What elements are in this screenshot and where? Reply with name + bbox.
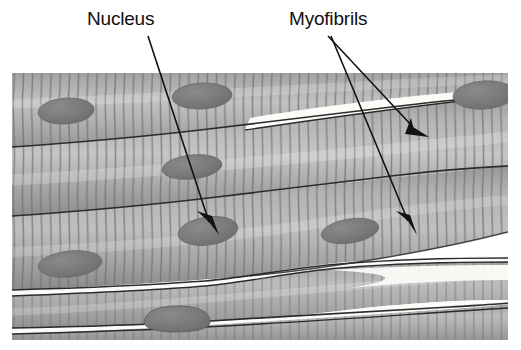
label-nucleus: Nucleus <box>87 9 154 28</box>
leader-line-myofibril-2 <box>331 36 408 221</box>
arrowhead-nucleus <box>197 211 219 235</box>
leader-line-myofibril-1 <box>328 36 413 127</box>
arrowhead-myofibril-2 <box>396 211 417 235</box>
leader-line-nucleus <box>148 36 209 222</box>
label-myofibrils: Myofibrils <box>289 9 367 28</box>
arrowhead-myofibril-1 <box>405 118 429 137</box>
figure-canvas: Nucleus Myofibrils <box>0 0 521 350</box>
leader-arrows <box>0 0 521 350</box>
